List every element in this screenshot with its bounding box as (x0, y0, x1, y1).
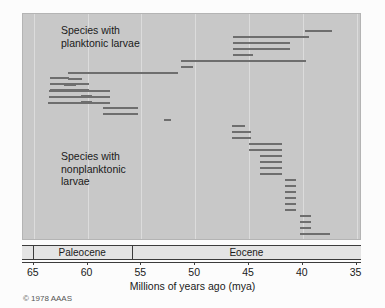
species-range-bar (233, 42, 290, 44)
tick-label-40: 40 (296, 266, 308, 278)
species-range-bar (300, 227, 312, 229)
tick-mark-50 (194, 262, 195, 265)
species-range-bar (249, 143, 282, 145)
species-range-bar (232, 125, 245, 127)
epoch-eocene: Eocene (132, 246, 361, 259)
tick-mark-55 (140, 262, 141, 265)
species-range-bar (181, 66, 193, 68)
species-range-bar (50, 83, 89, 85)
copyright-notice: © 1978 AAAS (23, 294, 72, 303)
species-range-bar (181, 60, 306, 62)
tick-label-65: 65 (27, 266, 39, 278)
species-range-bar (103, 113, 139, 115)
species-range-bar (81, 95, 92, 97)
epoch-divider (132, 246, 133, 259)
species-range-bar (260, 173, 283, 175)
species-range-bar (233, 54, 253, 56)
tick-mark-35 (356, 262, 357, 265)
tick-mark-60 (87, 262, 88, 265)
species-range-bar (233, 36, 309, 38)
species-range-bar (48, 102, 110, 104)
tick-mark-65 (33, 262, 34, 265)
species-range-bar (81, 101, 92, 103)
species-range-bar (285, 185, 297, 187)
species-range-bar (50, 77, 69, 79)
gridline-40 (303, 14, 304, 239)
species-range-bar (300, 233, 330, 235)
species-range-bar (260, 155, 283, 157)
series-label-planktonic: Species with planktonic larvae (61, 24, 140, 49)
species-range-bar (300, 215, 312, 217)
species-range-bar (285, 191, 297, 193)
series-label-nonplanktonic: Species with nonplanktonic larvae (61, 150, 126, 188)
species-range-bar (49, 96, 110, 98)
species-range-bar (285, 179, 297, 181)
species-range-bar (233, 48, 290, 50)
gridline-35 (357, 14, 358, 239)
species-range-bar (68, 72, 178, 74)
species-range-bar (285, 203, 297, 205)
gridline-50 (195, 14, 196, 239)
species-range-bar (285, 197, 297, 199)
species-range-bar (164, 119, 172, 121)
tick-mark-40 (302, 262, 303, 265)
epoch-paleocene: Paleocene (33, 246, 132, 259)
tick-label-55: 55 (135, 266, 147, 278)
tick-label-35: 35 (350, 266, 362, 278)
epoch-label: Eocene (229, 247, 263, 258)
x-axis-title: Millions of years ago (mya) (0, 280, 385, 292)
species-range-bar (50, 89, 89, 91)
tick-label-45: 45 (242, 266, 254, 278)
x-axis-line (22, 262, 361, 263)
species-range-bar (305, 30, 332, 32)
species-range-bar (103, 107, 139, 109)
plot-area: Species with planktonic larvae Species w… (22, 13, 361, 240)
tick-label-60: 60 (81, 266, 93, 278)
species-range-bar (68, 78, 82, 80)
tick-mark-45 (248, 262, 249, 265)
tick-label-50: 50 (188, 266, 200, 278)
species-range-bar (285, 209, 297, 211)
species-range-bar (232, 137, 251, 139)
species-range-bar (260, 161, 283, 163)
epoch-band: PaleoceneEocene (22, 245, 361, 260)
species-range-bar (260, 167, 283, 169)
figure-container: Species with planktonic larvae Species w… (0, 0, 385, 308)
species-range-bar (232, 131, 251, 133)
species-range-bar (300, 221, 312, 223)
species-range-bar (249, 149, 282, 151)
epoch-divider-start (33, 246, 34, 259)
gridline-65 (34, 14, 35, 239)
gridline-55 (141, 14, 142, 239)
epoch-label: Paleocene (59, 247, 106, 258)
